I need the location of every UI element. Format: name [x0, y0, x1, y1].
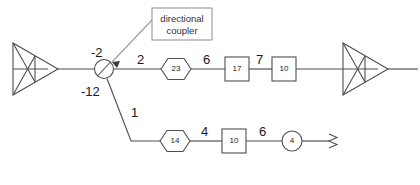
label-coupler-coupled: -12: [81, 85, 100, 98]
label-upper-path-1: 2: [137, 53, 144, 66]
upper-rect-10-value: 10: [274, 64, 294, 73]
label-upper-path-2: 6: [203, 53, 210, 66]
label-upper-path-3: 7: [256, 53, 263, 66]
label-lower-path-1: 4: [201, 125, 208, 138]
label-branch-1: 1: [131, 106, 138, 119]
label-coupler-through: -2: [91, 46, 103, 59]
upper-rect-17-value: 17: [227, 64, 247, 73]
lower-hexagon-14-value: 14: [165, 136, 185, 145]
upper-hexagon-23-value: 23: [166, 64, 186, 73]
callout-text-line2: coupler: [152, 25, 212, 37]
lower-circle-4-value: 4: [282, 136, 302, 145]
callout-text: directional coupler: [152, 13, 212, 37]
callout-text-line1: directional: [152, 13, 212, 25]
lower-rect-10-value: 10: [224, 136, 244, 145]
label-lower-path-2: 6: [259, 125, 266, 138]
block-diagram-canvas: -2 -12 2 6 7 1 4 6 23 17 10 14 10 4 dire…: [0, 0, 420, 185]
